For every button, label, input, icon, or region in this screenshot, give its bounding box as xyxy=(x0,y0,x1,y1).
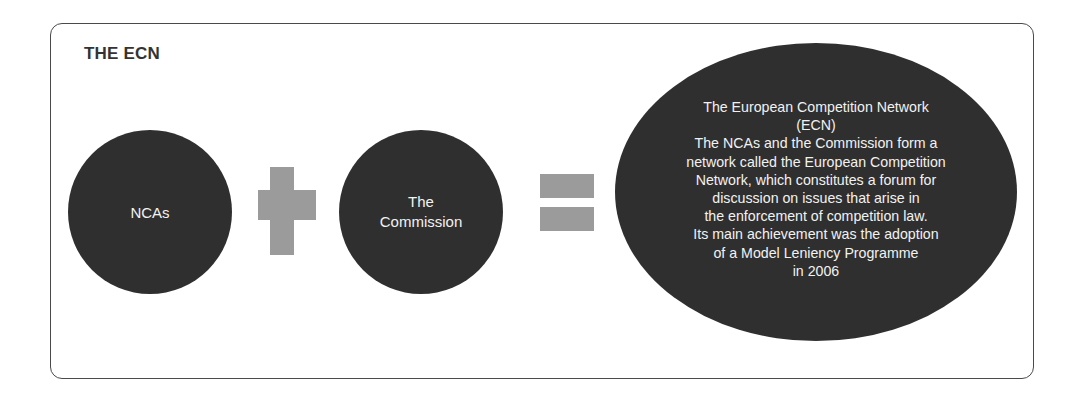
commission-node: The Commission xyxy=(339,130,503,294)
commission-label: The Commission xyxy=(380,192,463,232)
ncas-label: NCAs xyxy=(130,204,169,221)
equals-top-bar xyxy=(540,174,594,198)
ecn-description: The European Competition Network (ECN) T… xyxy=(686,98,945,280)
equals-bottom-bar xyxy=(540,207,594,231)
ecn-node: The European Competition Network (ECN) T… xyxy=(615,43,1017,341)
diagram-title: THE ECN xyxy=(84,44,160,64)
ncas-node: NCAs xyxy=(68,130,232,294)
plus-horizontal-bar xyxy=(258,190,316,220)
